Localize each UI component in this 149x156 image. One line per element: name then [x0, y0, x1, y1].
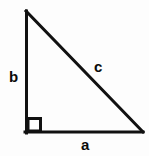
right-triangle-diagram: b c a — [0, 0, 149, 156]
triangle-figure — [0, 0, 149, 156]
label-side-b: b — [9, 69, 18, 84]
label-side-c: c — [94, 59, 102, 74]
label-side-a: a — [81, 137, 89, 152]
